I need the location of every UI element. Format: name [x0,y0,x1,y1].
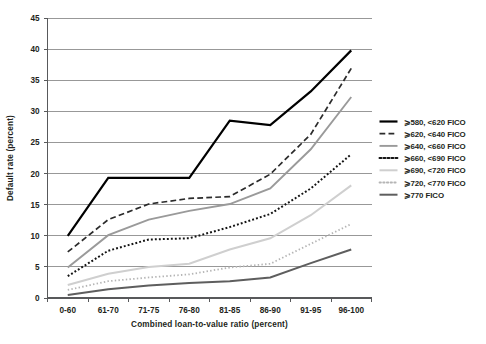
y-tick-label-25: 25 [30,138,40,147]
default-rate-line-chart: 051015202530354045 0-6061-7071-7576-8081… [0,0,486,344]
series-line-1 [68,68,352,252]
series-line-2 [68,97,352,267]
x-tick-label-81-85: 81-85 [219,306,240,315]
y-tick-label-0: 0 [35,294,40,303]
y-axis-tick-marks [44,18,48,298]
x-axis-tick-marks [48,298,372,302]
x-tick-label-91-95: 91-95 [300,306,321,315]
legend-item-6[interactable]: ⩾770 FICO [380,191,445,200]
legend-label-2: ⩾640, <660 FICO [404,142,466,151]
y-tick-label-20: 20 [30,170,40,179]
legend-label-1: ⩾620, <640 FICO [404,130,466,139]
y-axis-tick-labels: 051015202530354045 [30,14,40,303]
legend-item-4[interactable]: ⩾690, <720 FICO [380,166,466,175]
y-tick-label-30: 30 [30,107,40,116]
x-tick-label-71-75: 71-75 [138,306,159,315]
chart-container: 051015202530354045 0-6061-7071-7576-8081… [0,0,486,344]
x-tick-label-61-70: 61-70 [98,306,119,315]
y-axis-title: Default rate (percent) [6,115,15,201]
y-tick-label-10: 10 [30,232,40,241]
series-lines-group [68,50,352,295]
legend-label-0: ⩾580, <620 FICO [404,118,466,127]
x-tick-label-96-100: 96-100 [339,306,365,315]
legend-item-3[interactable]: ⩾660, <690 FICO [380,154,466,163]
legend: ⩾580, <620 FICO⩾620, <640 FICO⩾640, <660… [380,118,466,200]
x-tick-label-0-60: 0-60 [60,306,77,315]
legend-item-2[interactable]: ⩾640, <660 FICO [380,142,466,151]
legend-label-4: ⩾690, <720 FICO [404,166,466,175]
y-tick-label-5: 5 [35,263,40,272]
x-axis-tick-labels: 0-6061-7071-7576-8081-8586-9091-9596-100 [60,306,365,315]
x-axis-title: Combined loan-to-value ratio (percent) [131,320,288,329]
x-tick-label-76-80: 76-80 [179,306,200,315]
legend-item-1[interactable]: ⩾620, <640 FICO [380,130,466,139]
y-tick-label-45: 45 [30,14,40,23]
y-tick-label-15: 15 [30,201,40,210]
y-tick-label-35: 35 [30,76,40,85]
y-tick-label-40: 40 [30,45,40,54]
legend-label-3: ⩾660, <690 FICO [404,154,466,163]
legend-label-6: ⩾770 FICO [404,191,445,200]
x-tick-label-86-90: 86-90 [260,306,281,315]
legend-item-0[interactable]: ⩾580, <620 FICO [380,118,466,127]
legend-item-5[interactable]: ⩾720, <770 FICO [380,179,466,188]
legend-label-5: ⩾720, <770 FICO [404,179,466,188]
